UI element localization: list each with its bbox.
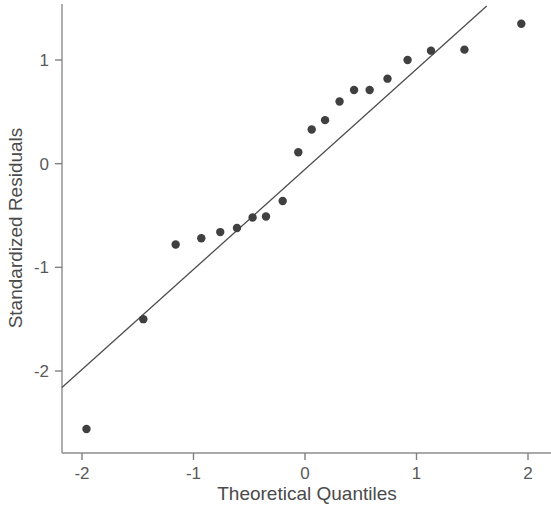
y-tick-label: 1: [40, 51, 49, 70]
data-point: [139, 315, 147, 323]
data-point: [262, 212, 270, 220]
x-tick-label: 0: [300, 464, 309, 483]
x-tick-label: -1: [186, 464, 201, 483]
y-tick-label: -1: [34, 258, 49, 277]
data-point: [248, 213, 256, 221]
y-tick-label: 0: [40, 155, 49, 174]
data-point: [233, 224, 241, 232]
x-tick-label: 2: [523, 464, 532, 483]
x-axis-ticks: -2-1012: [74, 453, 532, 483]
reference-line: [62, 6, 487, 387]
data-point: [197, 234, 205, 242]
data-point: [171, 240, 179, 248]
x-axis-title: Theoretical Quantiles: [217, 483, 397, 504]
data-point: [82, 425, 90, 433]
data-point: [427, 46, 435, 54]
data-point: [335, 97, 343, 105]
qq-plot-canvas: -2-1012 10-1-2 Theoretical Quantiles Sta…: [0, 0, 551, 510]
data-point: [517, 20, 525, 28]
data-point: [321, 116, 329, 124]
data-point: [383, 74, 391, 82]
data-point-series: [82, 20, 525, 434]
x-tick-label: -2: [74, 464, 89, 483]
data-point: [307, 125, 315, 133]
data-point: [294, 148, 302, 156]
data-point: [403, 56, 411, 64]
y-axis-ticks: 10-1-2: [34, 51, 62, 381]
y-tick-label: -2: [34, 362, 49, 381]
data-point: [216, 228, 224, 236]
data-point: [365, 86, 373, 94]
x-tick-label: 1: [412, 464, 421, 483]
data-point: [279, 197, 287, 205]
data-point: [350, 86, 358, 94]
data-point: [460, 45, 468, 53]
reference-line-path: [62, 6, 487, 387]
y-axis-title: Standardized Residuals: [5, 128, 26, 329]
plot-axes: [62, 4, 551, 453]
qq-plot-figure: -2-1012 10-1-2 Theoretical Quantiles Sta…: [0, 0, 551, 510]
